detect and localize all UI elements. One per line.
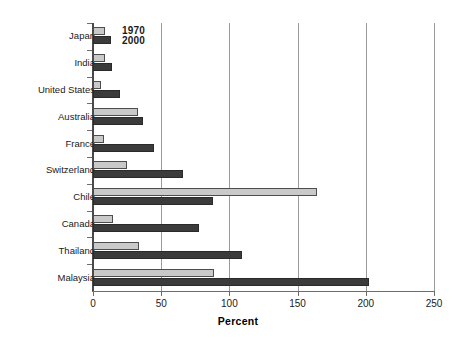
y-axis-tick — [87, 264, 92, 265]
y-axis-tick — [87, 237, 92, 238]
bar-australia-2000 — [93, 117, 143, 125]
bar-canada-1970 — [93, 215, 113, 223]
bar-japan-1970 — [93, 27, 105, 35]
bar-thailand-1970 — [93, 242, 139, 250]
x-axis-tick — [161, 291, 162, 296]
bar-australia-1970 — [93, 108, 138, 116]
bar-united-states-2000 — [93, 90, 120, 98]
y-axis-label-switzerland: Switzerland — [46, 164, 95, 175]
gridline — [366, 23, 367, 291]
y-axis-tick — [87, 23, 92, 24]
x-axis-tick-label: 250 — [426, 298, 443, 309]
x-axis-tick-label: 0 — [90, 298, 96, 309]
y-axis-label-japan: Japan — [69, 30, 95, 41]
x-axis-title: Percent — [0, 315, 476, 327]
bar-switzerland-1970 — [93, 161, 127, 169]
bar-chile-2000 — [93, 197, 213, 205]
bar-united-states-1970 — [93, 81, 101, 89]
y-axis-tick — [87, 103, 92, 104]
bar-india-2000 — [93, 63, 112, 71]
x-axis-tick — [366, 291, 367, 296]
x-axis-tick — [93, 291, 94, 296]
y-axis-tick — [87, 157, 92, 158]
x-axis-tick — [434, 291, 435, 296]
bar-malaysia-1970 — [93, 269, 214, 277]
y-axis-label-thailand: Thailand — [59, 244, 95, 255]
bar-chile-1970 — [93, 188, 317, 196]
bar-malaysia-2000 — [93, 278, 369, 286]
y-axis-label-malaysia: Malaysia — [58, 271, 96, 282]
y-axis-label-india: India — [74, 57, 95, 68]
y-axis-label-united-states: United States — [38, 84, 95, 95]
bar-india-1970 — [93, 54, 105, 62]
x-axis-tick-label: 200 — [357, 298, 374, 309]
bar-chart: 050100150200250 JapanIndiaUnited StatesA… — [0, 0, 476, 345]
gridline — [434, 23, 435, 291]
bar-switzerland-2000 — [93, 170, 183, 178]
y-axis-tick — [87, 50, 92, 51]
y-axis-label-canada: Canada — [62, 218, 95, 229]
x-axis-line — [92, 291, 435, 292]
y-axis-tick — [87, 130, 92, 131]
y-axis-label-australia: Australia — [58, 110, 95, 121]
legend-label-2000: 2000 — [122, 35, 145, 46]
y-axis-tick — [87, 211, 92, 212]
bar-canada-2000 — [93, 224, 199, 232]
y-axis-label-chile: Chile — [73, 191, 95, 202]
bar-france-2000 — [93, 144, 154, 152]
x-axis-tick — [229, 291, 230, 296]
x-axis-tick-label: 100 — [221, 298, 238, 309]
x-axis-tick — [298, 291, 299, 296]
x-axis-tick-label: 150 — [289, 298, 306, 309]
bar-japan-2000 — [93, 36, 111, 44]
y-axis-tick — [87, 77, 92, 78]
bar-france-1970 — [93, 135, 104, 143]
gridline — [298, 23, 299, 291]
y-axis-label-france: France — [65, 137, 95, 148]
y-axis-tick — [87, 184, 92, 185]
x-axis-tick-label: 50 — [156, 298, 167, 309]
bar-thailand-2000 — [93, 251, 242, 259]
